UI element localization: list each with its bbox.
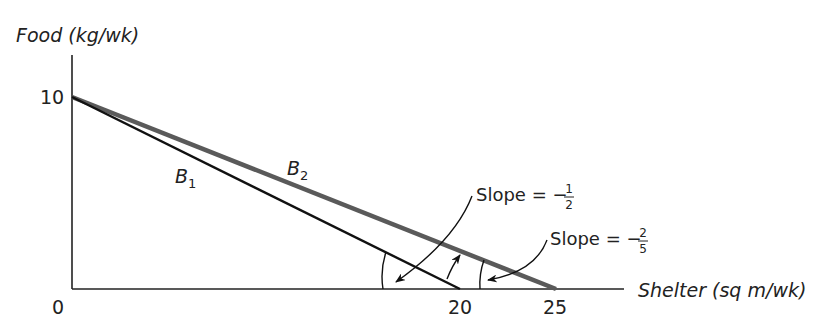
- svg-text:1: 1: [565, 182, 573, 196]
- budget-line-b1: [72, 97, 460, 289]
- angle-arc-b2: [480, 260, 484, 289]
- origin-label: 0: [52, 296, 64, 318]
- x-tick-25: 25: [543, 296, 567, 318]
- svg-text:Slope = −: Slope = −: [476, 184, 568, 205]
- x-tick-20: 20: [448, 296, 472, 318]
- svg-text:5: 5: [639, 242, 647, 256]
- budget-constraint-chart: Food (kg/wk) Shelter (sq m/wk) 10 0 20 2…: [0, 0, 821, 336]
- b2-label: B2: [287, 157, 308, 183]
- y-tick-10: 10: [40, 86, 64, 108]
- small-arrow: [447, 255, 460, 279]
- slope1-annotation: Slope = − 1 2: [476, 182, 574, 212]
- x-axis-title: Shelter (sq m/wk): [638, 279, 806, 301]
- b1-label: B1: [175, 165, 196, 191]
- slope2-annotation: Slope = − 2 5: [550, 226, 648, 256]
- angle-arc-b1: [382, 252, 386, 289]
- svg-text:Slope = −: Slope = −: [550, 228, 642, 249]
- svg-text:2: 2: [565, 198, 573, 212]
- y-axis-title: Food (kg/wk): [16, 24, 139, 46]
- svg-text:2: 2: [639, 226, 647, 240]
